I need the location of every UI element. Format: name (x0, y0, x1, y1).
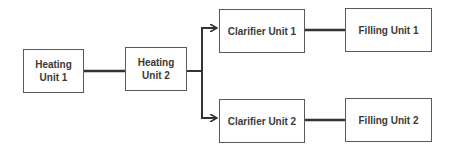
node-filling-unit-1: Filling Unit 1 (345, 8, 432, 52)
node-heating-unit-1: HeatingUnit 1 (23, 49, 84, 93)
node-filling-unit-2: Filling Unit 2 (345, 98, 432, 142)
node-clarifier-unit-2: Clarifier Unit 2 (219, 99, 305, 143)
node-heating-unit-2: HeatingUnit 2 (125, 47, 187, 91)
node-clarifier-unit-1: Clarifier Unit 1 (219, 9, 305, 53)
